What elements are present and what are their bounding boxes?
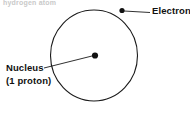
cropped-header-text: hydrogen atom (3, 0, 56, 7)
nucleus-dot (92, 52, 98, 58)
nucleus-label-line-1: Nucleus (6, 62, 44, 73)
electron-label: Electron (152, 5, 190, 16)
electron-dot (119, 8, 124, 13)
nucleus-label-line-2: (1 proton) (6, 75, 51, 86)
hydrogen-atom-diagram: hydrogen atom Nucleus (1 proton) Electro… (0, 0, 190, 115)
diagram-canvas: hydrogen atom Nucleus (1 proton) Electro… (0, 0, 190, 115)
